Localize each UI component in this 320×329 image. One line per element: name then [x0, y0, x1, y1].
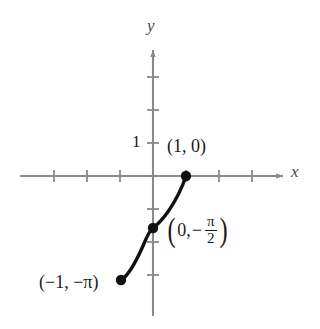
point-label-inner: 0, − π 2 — [177, 214, 217, 247]
minus-sign: − — [191, 221, 204, 239]
point-label-x-part: 0, — [177, 221, 191, 239]
fraction-numerator: π — [205, 214, 217, 230]
close-paren: ) — [219, 216, 227, 245]
x-axis-label: x — [291, 163, 299, 180]
fraction-pi-over-2: π 2 — [205, 214, 217, 247]
fraction-denominator: 2 — [205, 230, 217, 247]
point-label-0-neg-half-pi: ( 0, − π 2 ) — [166, 214, 229, 247]
point-marker-neg1-negpi — [116, 275, 126, 285]
y-tick-label-1: 1 — [132, 133, 141, 150]
point-marker-0-neghalfpi — [148, 223, 158, 233]
open-paren: ( — [168, 216, 176, 245]
point-marker-1-0 — [181, 171, 191, 181]
point-label-neg1-neg-pi: (−1, −π) — [39, 273, 98, 291]
y-axis-label: y — [147, 17, 155, 34]
graph-figure: y x 1 (1, 0) ( 0, − π 2 ) (−1, −π) — [0, 0, 320, 329]
point-label-1-0: (1, 0) — [167, 137, 206, 155]
